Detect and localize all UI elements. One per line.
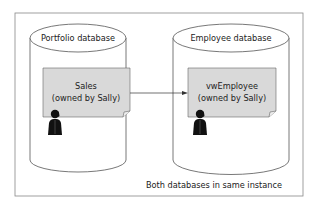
vwemployee-owner: (owned by Sally) (198, 93, 266, 103)
vwemployee-object-name: vwEmployee (206, 81, 258, 91)
instance-caption: Both databases in same instance (146, 180, 282, 190)
sales-owner: (owned by Sally) (52, 93, 120, 103)
diagram: Portfolio database Employee database Sal… (0, 0, 321, 209)
sales-object-name: Sales (75, 81, 97, 91)
portfolio-database-title: Portfolio database (41, 33, 115, 43)
vwemployee-view-document: vwEmployee (owned by Sally) (188, 68, 276, 117)
sales-table-document: Sales (owned by Sally) (43, 68, 130, 117)
employee-database-title: Employee database (190, 33, 271, 43)
